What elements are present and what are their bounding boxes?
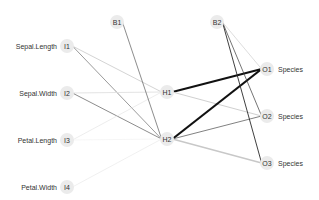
neural-network-diagram: B1B2I1I2I3I4H1H2O1O2O3 Sepal.LengthSepal… [0,0,319,200]
node-o3: O3 [260,156,274,170]
node-i4: I4 [60,180,74,194]
node-label: H2 [163,136,172,143]
nodes-layer: B1B2I1I2I3I4H1H2O1O2O3 [60,15,274,194]
input-variable-label: Petal.Length [18,137,57,145]
input-variable-label: Petal.Width [21,184,57,191]
node-h2: H2 [160,132,174,146]
edge-b2-o1 [222,22,261,69]
node-label: B2 [213,19,222,26]
node-label: H1 [163,89,172,96]
node-h1: H1 [160,85,174,99]
node-b1: B1 [110,15,124,29]
output-variable-label: Species [278,160,303,168]
output-variable-label: Species [278,66,303,74]
node-i1: I1 [60,39,74,53]
edge-i1-h1 [72,46,161,92]
node-label: I1 [64,43,70,50]
edge-h2-o3 [172,139,261,163]
node-label: O2 [262,113,271,120]
input-variable-label: Sepal.Length [16,43,57,51]
edge-i3-h2 [72,139,161,140]
node-label: I4 [64,184,70,191]
node-o2: O2 [260,109,274,123]
node-label: O3 [262,160,271,167]
node-o1: O1 [260,62,274,76]
node-label: I3 [64,137,70,144]
node-i2: I2 [60,86,74,100]
edge-b2-o3 [222,22,261,163]
edge-i2-h1 [72,92,161,93]
input-variable-label: Sepal.Width [19,90,57,98]
edge-i4-h2 [72,139,161,187]
node-label: O1 [262,66,271,73]
output-variable-label: Species [278,113,303,121]
node-label: I2 [64,90,70,97]
edges-layer [72,22,261,187]
node-label: B1 [113,19,122,26]
edge-b2-o2 [222,22,261,116]
node-b2: B2 [210,15,224,29]
node-i3: I3 [60,133,74,147]
